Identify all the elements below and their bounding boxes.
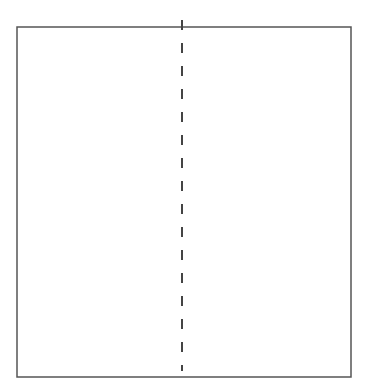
diagram-svg — [0, 0, 368, 392]
outer-rectangle — [17, 27, 351, 377]
diagram-canvas — [0, 0, 368, 392]
